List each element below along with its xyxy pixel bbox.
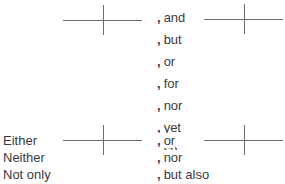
bottom-right-divider: [244, 125, 245, 155]
comma: ,: [157, 54, 161, 69]
conjunction-text: but: [164, 32, 182, 47]
conjunction-item: ,or: [157, 54, 175, 69]
comma: ,: [157, 76, 161, 91]
correlative-second-item: ,but also: [157, 167, 209, 182]
comma: ,: [157, 133, 161, 148]
conjunction-text: or: [164, 54, 176, 69]
correlative-first-neither: Neither: [3, 150, 45, 165]
correlative-first-either: Either: [3, 133, 37, 148]
correlative-second-item: ,or: [157, 133, 175, 148]
conjunction-item: ,and: [157, 10, 185, 25]
comma: ,: [157, 150, 161, 165]
correlative-second-item: ,nor: [157, 150, 182, 165]
conjunction-item: ,but: [157, 32, 182, 47]
top-right-divider: [244, 4, 245, 34]
conjunction-item: ,nor: [157, 98, 182, 113]
comma: ,: [157, 167, 161, 182]
bottom-left-divider: [103, 125, 104, 155]
comma: ,: [157, 10, 161, 25]
correlative-first-not-only: Not only: [3, 167, 51, 182]
conjunction-text: but also: [164, 167, 210, 182]
conjunction-text: nor: [164, 98, 183, 113]
conjunction-text: and: [164, 10, 186, 25]
conjunction-text: or: [164, 133, 176, 148]
conjunction-text: nor: [164, 150, 183, 165]
top-left-divider: [103, 5, 104, 35]
comma: ,: [157, 32, 161, 47]
conjunction-item: ,for: [157, 76, 179, 91]
conjunction-text: for: [164, 76, 179, 91]
comma: ,: [157, 98, 161, 113]
